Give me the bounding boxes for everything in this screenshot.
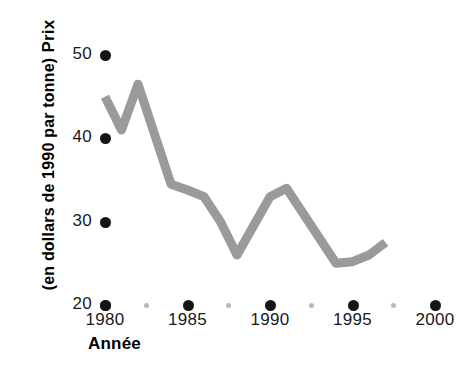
price-line-series <box>105 84 386 263</box>
chart-container: (en dollars de 1990 par tonne) Prix Anné… <box>0 0 469 377</box>
plot-area <box>0 0 469 377</box>
